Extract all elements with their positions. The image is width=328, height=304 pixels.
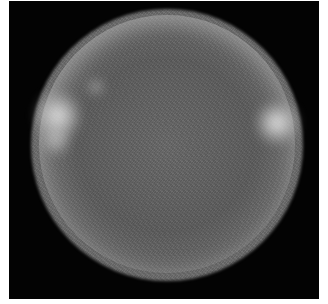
bright-spot-right xyxy=(257,103,297,143)
bright-spot-small xyxy=(89,81,103,93)
bright-spot-left-lower xyxy=(43,126,69,154)
sphere-limb xyxy=(39,15,295,273)
image-frame: Grayscale image of a bright spherical ob… xyxy=(9,1,319,299)
